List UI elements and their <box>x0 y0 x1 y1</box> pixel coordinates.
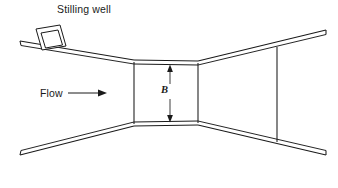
downstream-upper-wall <box>198 30 326 65</box>
upstream-upper-wall-endcap <box>20 41 21 46</box>
throat-bottom-wall-inner <box>134 121 198 122</box>
stilling-well-icon <box>36 25 66 50</box>
downstream-lower-wall-inner <box>198 121 326 151</box>
throat-width-label: B <box>161 85 168 96</box>
flow-arrow-icon <box>68 90 107 97</box>
upstream-lower-wall-outer <box>20 126 134 155</box>
flow-label: Flow <box>40 88 63 99</box>
upstream-upper-wall <box>20 41 134 64</box>
upstream-lower-wall <box>20 122 134 155</box>
downstream-upper-wall-inner <box>198 35 326 66</box>
throat-top-wall-inner <box>134 64 198 65</box>
throat-top-wall-outer <box>134 60 198 61</box>
stilling-well-inner-box <box>41 30 63 48</box>
throat-bottom-wall-outer <box>134 125 198 126</box>
upstream-upper-wall-outer <box>20 41 134 60</box>
downstream-upper-wall-outer <box>198 30 326 61</box>
downstream-lower-wall-outer <box>198 125 326 155</box>
flume-diagram-figure: Stilling well Flow B <box>0 0 338 188</box>
downstream-lower-wall <box>198 121 326 155</box>
upstream-upper-wall-inner <box>21 46 134 65</box>
dimension-arrowhead-up <box>167 65 173 73</box>
stilling-well-label: Stilling well <box>57 4 111 15</box>
flow-arrowhead <box>98 90 107 97</box>
upstream-lower-wall-inner <box>21 122 134 151</box>
